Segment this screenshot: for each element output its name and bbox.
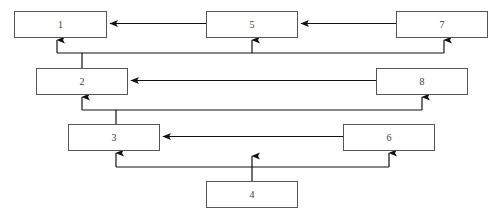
- connector-row3-to-row2: [82, 97, 422, 124]
- connector-row2-to-row1: [57, 40, 444, 68]
- node-box-6[interactable]: 6: [343, 124, 435, 151]
- node-box-7[interactable]: 7: [396, 11, 488, 38]
- node-label-4: 4: [249, 190, 254, 200]
- node-label-7: 7: [439, 20, 444, 30]
- node-label-5: 5: [249, 20, 254, 30]
- node-box-4[interactable]: 4: [206, 181, 298, 208]
- node-box-3[interactable]: 3: [68, 124, 160, 151]
- node-label-3: 3: [111, 133, 116, 143]
- node-box-8[interactable]: 8: [376, 68, 468, 95]
- node-label-2: 2: [79, 77, 84, 87]
- node-label-8: 8: [419, 77, 424, 87]
- diagram-canvas: 1 5 7 2 8 3 6 4: [0, 0, 502, 219]
- node-label-1: 1: [58, 20, 63, 30]
- node-box-2[interactable]: 2: [36, 68, 128, 95]
- node-label-6: 6: [386, 133, 391, 143]
- connector-row4-to-row3: [116, 153, 389, 181]
- node-box-1[interactable]: 1: [14, 11, 107, 38]
- node-box-5[interactable]: 5: [206, 11, 298, 38]
